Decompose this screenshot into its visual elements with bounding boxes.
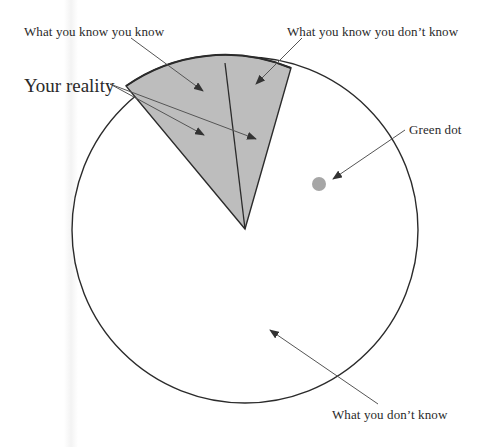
knowledge-circle-diagram [0, 0, 491, 447]
label-your-reality: Your reality [24, 75, 114, 97]
green-dot [312, 177, 326, 191]
label-unknown-unknown: What you don’t know [332, 407, 447, 423]
label-known-known: What you know you know [24, 24, 164, 40]
label-known-unknown: What you know you don’t know [287, 24, 458, 40]
label-green-dot: Green dot [409, 122, 462, 138]
